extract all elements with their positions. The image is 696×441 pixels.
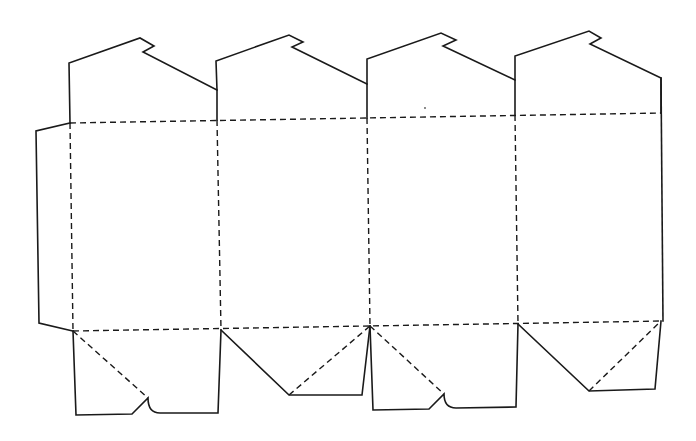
top-flap-3-outline (367, 33, 515, 115)
bottom-flap-2-outline (221, 326, 370, 395)
bottom-fold-line (73, 321, 663, 331)
bottom-flap-4-outline (518, 321, 661, 391)
top-flap-4-outline (515, 31, 661, 113)
top-fold-line (70, 113, 661, 123)
paper-speck (424, 107, 426, 109)
panel-fold-4 (515, 115, 518, 324)
glue-flap-outline (36, 123, 73, 331)
panel-fold-3 (367, 118, 370, 326)
cut-lines (36, 31, 663, 415)
panel-fold-2 (217, 120, 221, 330)
panel-fold-1 (70, 123, 73, 331)
bottom-diagonal-2 (289, 326, 370, 395)
bottom-diagonal-1 (73, 331, 148, 398)
bottom-flap-3-outline (370, 324, 518, 410)
diagram-svg (0, 0, 696, 441)
top-flap-2-outline (216, 35, 367, 118)
right-edge (661, 78, 663, 321)
top-flap-1-outline (69, 38, 217, 123)
bottom-flap-1-outline (73, 330, 221, 415)
bottom-diagonal-4 (589, 321, 661, 391)
bottom-diagonal-3 (370, 326, 444, 394)
box-net-diagram (0, 0, 696, 441)
